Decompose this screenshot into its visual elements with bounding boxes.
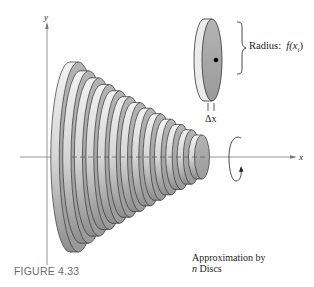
annotation-line1: Approximation by	[192, 252, 266, 263]
y-axis-label: y	[43, 12, 48, 22]
radius-func: f(x	[286, 40, 297, 51]
single-disc	[194, 19, 222, 111]
delta-x-label: Δx	[205, 113, 216, 124]
radius-label: Radius: f(xi)	[249, 40, 303, 54]
annotation-discs: Discs	[197, 263, 222, 274]
rotation-arrow-icon	[229, 137, 244, 181]
x-axis	[210, 155, 297, 158]
right-brace-icon	[237, 22, 246, 74]
figure-caption: FIGURE 4.33	[14, 265, 79, 277]
annotation-line2: n Discs	[192, 263, 266, 274]
y-axis	[45, 22, 48, 265]
x-axis-label: x	[298, 152, 303, 162]
radius-close: )	[299, 40, 303, 51]
disc	[188, 135, 209, 179]
radius-prefix: Radius:	[249, 40, 281, 51]
approximation-annotation: Approximation by n Discs	[192, 252, 266, 274]
disc-center-dot	[214, 58, 219, 63]
